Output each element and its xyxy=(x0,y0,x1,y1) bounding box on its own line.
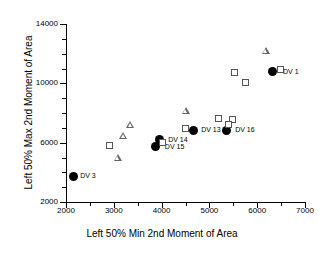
x-tick-minor xyxy=(233,202,234,206)
y-tick-minor xyxy=(62,187,66,188)
y-tick-minor xyxy=(62,128,66,129)
marker-triangle xyxy=(119,132,127,139)
y-tick-major xyxy=(60,83,66,84)
x-tick-label: 3000 xyxy=(94,206,134,215)
x-axis-title: Left 50% Min 2nd Moment of Area xyxy=(0,228,324,239)
point-label: DV 1 xyxy=(283,68,299,76)
y-tick-minor xyxy=(62,158,66,159)
marker-square xyxy=(225,121,232,128)
marker-triangle xyxy=(126,121,134,128)
y-tick-major xyxy=(60,24,66,25)
x-tick-minor xyxy=(281,202,282,206)
marker-circle xyxy=(69,172,78,181)
y-tick-major xyxy=(60,143,66,144)
marker-square xyxy=(277,66,284,73)
x-tick-minor xyxy=(186,202,187,206)
x-tick-label: 7000 xyxy=(285,206,324,215)
marker-triangle xyxy=(114,154,122,161)
y-axis-line xyxy=(66,24,67,202)
marker-square xyxy=(159,139,166,146)
x-tick-label: 5000 xyxy=(189,206,229,215)
y-tick-minor xyxy=(62,113,66,114)
marker-circle xyxy=(268,67,277,76)
y-tick-minor xyxy=(62,172,66,173)
y-tick-minor xyxy=(62,69,66,70)
x-tick-label: 2000 xyxy=(46,206,86,215)
x-tick-label: 6000 xyxy=(237,206,277,215)
y-tick-minor xyxy=(62,39,66,40)
marker-triangle xyxy=(262,47,270,54)
point-label: DV 15 xyxy=(165,143,184,151)
y-tick-minor xyxy=(62,54,66,55)
scatter-chart: 200060001000014000 200030004000500060007… xyxy=(0,0,324,253)
marker-square xyxy=(106,142,113,149)
x-tick-minor xyxy=(138,202,139,206)
x-tick-label: 4000 xyxy=(142,206,182,215)
marker-square xyxy=(182,125,189,132)
marker-triangle xyxy=(182,107,190,114)
y-axis-title: Left 50% Max 2nd Moment of Area xyxy=(23,23,34,203)
point-label: DV 16 xyxy=(235,126,254,134)
marker-square xyxy=(231,69,238,76)
marker-square xyxy=(215,115,222,122)
point-label: DV 3 xyxy=(80,172,96,180)
x-tick-minor xyxy=(90,202,91,206)
point-label: DV 13 xyxy=(201,126,220,134)
marker-square xyxy=(242,79,249,86)
y-tick-minor xyxy=(62,98,66,99)
marker-circle xyxy=(189,126,198,135)
